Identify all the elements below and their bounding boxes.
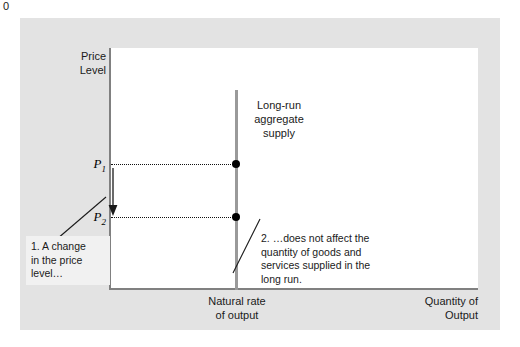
natural-rate-line-1: Natural rate	[186, 294, 288, 308]
equilibrium-point-p1	[232, 160, 240, 168]
callout-one-line-1: 1. A change	[31, 240, 105, 254]
lras-curve-label: Long-run aggregate supply	[233, 98, 325, 140]
callout-one-line-2: in the price	[31, 254, 105, 268]
x-axis-title-line-2: Output	[390, 308, 478, 322]
lras-label-line-3: supply	[233, 126, 325, 140]
callout-one-line-3: level…	[31, 267, 105, 281]
callout-two-line-3: services supplied in the	[261, 259, 375, 273]
lras-figure: Long-run aggregate supply Price Level Qu…	[0, 0, 520, 347]
p1-symbol: P	[94, 156, 102, 171]
callout-no-effect-on-output: 2. …does not affect the quantity of good…	[256, 228, 380, 290]
callout-price-change: 1. A change in the price level…	[26, 236, 110, 285]
lras-label-line-1: Long-run	[233, 98, 325, 112]
callout-two-line-4: long run.	[261, 273, 375, 287]
callout-two-line-2: quantity of goods and	[261, 246, 375, 260]
guide-line-p2	[111, 217, 237, 218]
natural-rate-of-output-label: Natural rate of output	[186, 294, 288, 322]
callout-one-leader-line	[56, 196, 108, 240]
y-axis-title: Price Level	[66, 49, 106, 77]
price-level-p1-label: P1	[82, 156, 106, 174]
lras-label-line-2: aggregate	[233, 112, 325, 126]
x-axis-title-line-1: Quantity of	[390, 294, 478, 308]
price-decrease-arrow-icon	[106, 168, 120, 216]
y-axis-title-line-2: Level	[66, 63, 106, 77]
callout-two-line-1: 2. …does not affect the	[261, 232, 375, 246]
origin-label: 0	[0, 0, 12, 12]
y-axis-title-line-1: Price	[66, 49, 106, 63]
x-axis-title: Quantity of Output	[390, 294, 478, 322]
natural-rate-line-2: of output	[186, 308, 288, 322]
guide-line-p1	[111, 164, 237, 165]
